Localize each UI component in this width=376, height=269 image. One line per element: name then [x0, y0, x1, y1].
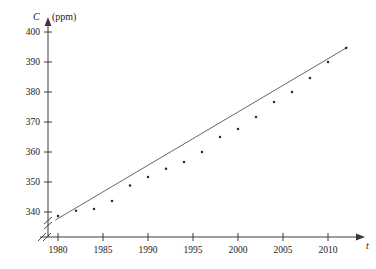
y-axis: [45, 17, 52, 237]
trend-line: [55, 47, 348, 220]
data-points: [57, 47, 348, 218]
y-tick-label: 370: [26, 117, 41, 127]
data-point: [291, 91, 294, 94]
data-point: [75, 210, 78, 213]
data-point: [129, 184, 132, 187]
y-axis-unit-label: (ppm): [52, 11, 76, 23]
x-tick-label: 2010: [319, 245, 338, 255]
data-point: [345, 47, 348, 50]
x-axis: [40, 234, 365, 241]
y-tick-label: 400: [26, 27, 41, 37]
x-axis-label: t: [366, 240, 369, 251]
scatter-plot-canvas: 340350360370380390400 198019851990199520…: [0, 0, 376, 269]
data-point: [273, 101, 276, 104]
data-point: [57, 215, 60, 218]
x-tick-label: 1995: [184, 245, 203, 255]
data-point: [309, 77, 312, 80]
chart-figure: 340350360370380390400 198019851990199520…: [0, 0, 376, 269]
y-tick-label: 390: [26, 57, 41, 67]
y-tick-label: 340: [26, 207, 41, 217]
data-point: [237, 128, 240, 131]
y-axis-label: C: [33, 11, 40, 22]
data-point: [327, 61, 330, 64]
data-point: [165, 168, 168, 171]
x-tick-label: 1980: [49, 245, 68, 255]
y-tick-label: 350: [26, 177, 41, 187]
x-axis-ticks: 1980198519901995200020052010: [49, 233, 338, 255]
y-tick-label: 360: [26, 147, 41, 157]
x-tick-label: 1985: [94, 245, 113, 255]
data-point: [255, 116, 258, 119]
x-tick-label: 2000: [229, 245, 248, 255]
x-tick-label: 2005: [274, 245, 293, 255]
data-point: [93, 208, 96, 211]
data-point: [219, 136, 222, 139]
data-point: [147, 176, 150, 179]
trend-line-segment: [55, 47, 348, 220]
data-point: [201, 151, 204, 154]
x-tick-label: 1990: [139, 245, 158, 255]
data-point: [183, 161, 186, 164]
y-tick-label: 380: [26, 87, 41, 97]
data-point: [111, 200, 114, 203]
